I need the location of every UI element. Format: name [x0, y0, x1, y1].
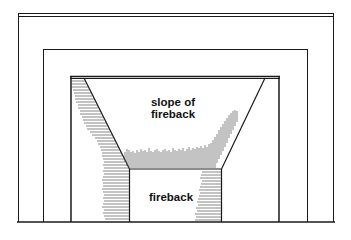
- fireplace-diagram: [0, 0, 351, 240]
- fireback-label: fireback: [143, 191, 199, 203]
- left-slope-line: [84, 78, 130, 169]
- slope-label-line2: fireback: [138, 108, 208, 120]
- slope-label-line1: slope of: [138, 96, 208, 108]
- slope-of-fireback-label: slope of fireback: [138, 96, 208, 120]
- right-slope-line: [222, 78, 266, 169]
